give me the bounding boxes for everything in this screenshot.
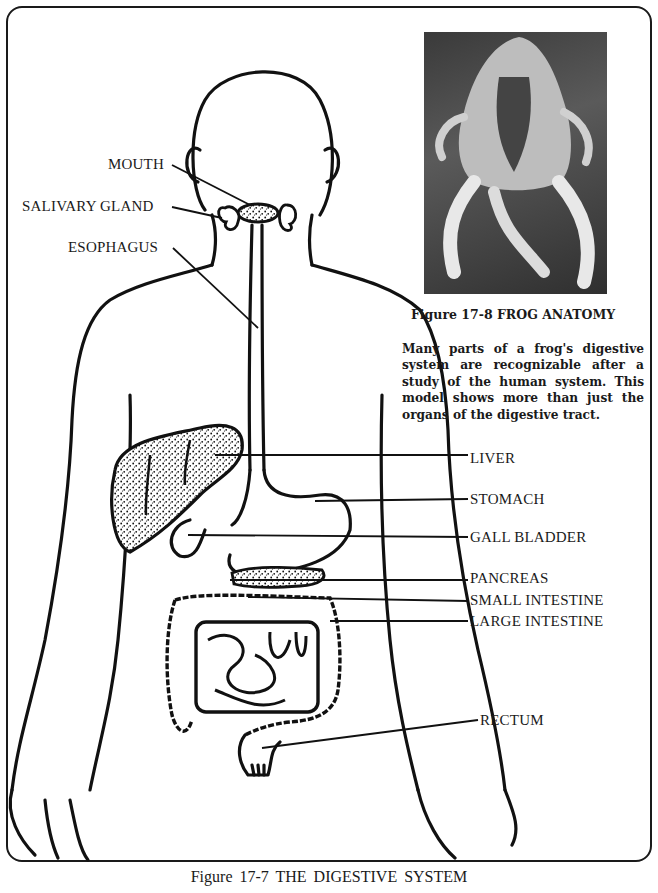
label-liver: LIVER <box>470 451 515 466</box>
label-esophagus: ESOPHAGUS <box>68 240 158 255</box>
mouth-shape <box>238 204 278 222</box>
frog-model-icon <box>424 32 607 294</box>
esophagus-outline <box>249 225 264 470</box>
left-shoulder <box>12 265 212 790</box>
label-rectum: RECTUM <box>480 713 544 728</box>
frog-figure-caption: Figure 17-8 FROG ANATOMY <box>411 307 615 322</box>
salivary-gland-right <box>279 205 295 231</box>
gall-bladder-outline <box>171 520 205 557</box>
label-large-intestine: LARGE INTESTINE <box>470 614 603 629</box>
frog-anatomy-photo <box>424 32 607 294</box>
head-outline <box>193 72 332 215</box>
figure-caption: Figure 17-7 THE DIGESTIVE SYSTEM <box>0 868 658 886</box>
label-pancreas: PANCREAS <box>470 571 549 586</box>
label-salivary-gland: SALIVARY GLAND <box>22 199 154 214</box>
small-intestine-region <box>196 622 318 712</box>
left-hand <box>10 790 88 860</box>
right-hand <box>418 790 516 858</box>
label-small-intestine: SMALL INTESTINE <box>470 593 604 608</box>
label-mouth: MOUTH <box>108 157 164 172</box>
label-gall-bladder: GALL BLADDER <box>470 530 586 545</box>
frog-figure-description: Many parts of a frog's digestive system … <box>402 341 644 423</box>
label-stomach: STOMACH <box>470 492 544 507</box>
pancreas-shape <box>232 567 324 587</box>
